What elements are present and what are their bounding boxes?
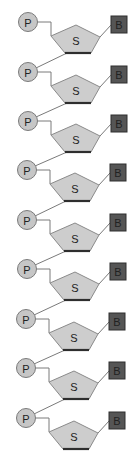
phosphate-sugar-bond [37, 269, 50, 283]
sugar-label: S [70, 332, 77, 344]
sugar-label: S [72, 35, 79, 47]
backbone-bond [34, 350, 65, 364]
sugar-label: S [70, 431, 77, 443]
nucleotide-units: PSBPSBPSBPSBPSBPSBPSBPSBPSB [17, 13, 128, 450]
nucleotide-unit: PSB [17, 310, 126, 351]
phosphate-label: P [24, 17, 31, 29]
sugar-label: S [71, 282, 78, 294]
backbone-bond [34, 300, 66, 315]
base-label: B [115, 19, 122, 31]
phosphate-sugar-bond [38, 72, 51, 86]
backbone-bond [36, 103, 67, 117]
nucleotide-unit: PSB [17, 359, 126, 400]
base-label: B [114, 266, 121, 278]
sugar-base-bond [98, 371, 109, 383]
nucleotide-unit: PSB [18, 260, 127, 301]
sugar-base-bond [99, 272, 110, 284]
phosphate-label: P [23, 215, 30, 227]
sugar-label: S [71, 183, 78, 195]
sugar-base-bond [98, 322, 109, 334]
base-label: B [114, 167, 121, 179]
nucleotide-unit: PSB [19, 63, 128, 104]
phosphate-label: P [22, 363, 29, 375]
sugar-label: S [72, 134, 79, 146]
backbone-bond [35, 251, 66, 265]
phosphate-sugar-bond [37, 170, 50, 184]
nucleotide-unit: PSB [19, 13, 128, 54]
phosphate-label: P [23, 165, 30, 177]
base-label: B [113, 365, 120, 377]
phosphate-sugar-bond [36, 319, 49, 333]
base-label: B [115, 69, 122, 81]
sugar-base-bond [99, 223, 110, 235]
nucleotide-unit: PSB [18, 161, 127, 202]
sugar-label: S [72, 85, 79, 97]
sugar-base-bond [98, 421, 109, 433]
phosphate-sugar-bond [36, 368, 49, 382]
backbone-bond [36, 53, 67, 68]
sugar-label: S [71, 233, 78, 245]
nucleotide-unit: PSB [18, 211, 127, 252]
dna-strand-diagram: PSBPSBPSBPSBPSBPSBPSBPSBPSB [0, 0, 134, 469]
base-label: B [115, 118, 122, 130]
phosphate-sugar-bond [36, 418, 49, 432]
sugar-base-bond [100, 124, 111, 136]
phosphate-label: P [22, 314, 29, 326]
sugar-label: S [70, 381, 77, 393]
sugar-base-bond [100, 75, 111, 87]
nucleotide-unit: PSB [17, 409, 126, 450]
backbone-bond [34, 399, 65, 414]
phosphate-sugar-bond [38, 22, 51, 36]
phosphate-sugar-bond [37, 220, 50, 234]
phosphate-label: P [22, 413, 29, 425]
base-label: B [114, 217, 121, 229]
base-label: B [113, 316, 120, 328]
phosphate-label: P [24, 116, 31, 128]
backbone-bond [35, 201, 66, 216]
phosphate-sugar-bond [38, 121, 51, 135]
base-label: B [113, 415, 120, 427]
nucleotide-unit: PSB [19, 112, 128, 153]
sugar-base-bond [100, 25, 111, 37]
backbone-bond [35, 152, 67, 166]
phosphate-label: P [23, 264, 30, 276]
phosphate-label: P [24, 67, 31, 79]
sugar-base-bond [99, 173, 110, 185]
